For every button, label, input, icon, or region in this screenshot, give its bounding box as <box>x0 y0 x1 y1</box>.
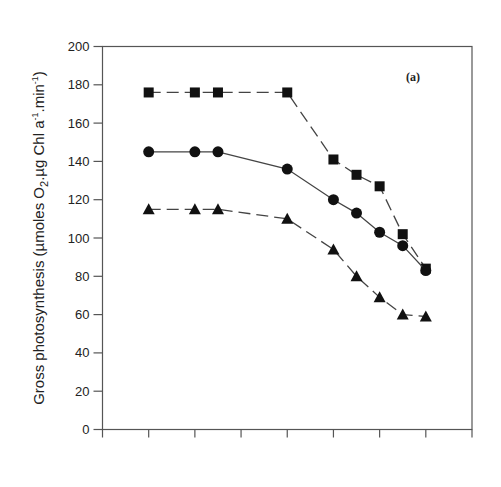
y-tick-label: 160 <box>68 116 90 131</box>
y-tick-label: 40 <box>75 345 89 360</box>
circle-marker <box>397 240 408 251</box>
triangle-marker <box>397 309 409 320</box>
y-tick-label: 140 <box>68 154 90 169</box>
y-tick-label: 180 <box>68 77 90 92</box>
plot-frame <box>103 47 473 430</box>
data-series <box>143 87 432 321</box>
circle-marker <box>189 146 200 157</box>
y-tick-label: 20 <box>75 384 89 399</box>
chart: 020406080100120140160180200 (a) Gross ph… <box>0 0 501 487</box>
square-marker <box>328 154 338 164</box>
series-squares <box>144 87 431 273</box>
square-marker <box>282 87 292 97</box>
series-circles <box>143 146 431 276</box>
panel-label: (a) <box>406 70 420 84</box>
y-tick-label: 100 <box>68 231 90 246</box>
y-tick-label: 80 <box>75 269 89 284</box>
y-axis-ticks: 020406080100120140160180200 <box>68 39 103 437</box>
circle-marker <box>374 227 385 238</box>
square-marker <box>213 87 223 97</box>
circle-marker <box>351 208 362 219</box>
triangle-marker <box>327 243 339 254</box>
square-marker <box>190 87 200 97</box>
square-marker <box>375 181 385 191</box>
circle-marker <box>328 194 339 205</box>
x-axis-ticks <box>103 430 473 438</box>
circle-marker <box>212 146 223 157</box>
y-tick-label: 200 <box>68 39 90 54</box>
circle-marker <box>282 164 293 175</box>
circle-marker <box>420 265 431 276</box>
y-tick-label: 120 <box>68 192 90 207</box>
circle-marker <box>143 146 154 157</box>
y-tick-label: 60 <box>75 307 89 322</box>
y-tick-label: 0 <box>82 422 89 437</box>
y-axis-label: Gross photosynthesis (µmoles O2.µg Chl a… <box>30 71 50 405</box>
series-triangles <box>143 203 432 321</box>
square-marker <box>144 87 154 97</box>
square-marker <box>352 170 362 180</box>
square-marker <box>398 229 408 239</box>
